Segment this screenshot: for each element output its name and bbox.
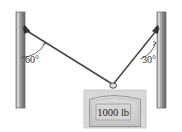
cable-junction-ring: [110, 83, 117, 88]
cable-assembly: [26, 30, 157, 85]
right-hook-bracket: [152, 25, 159, 33]
right-anchor-hook: [152, 25, 159, 33]
weight-label-text: 1000 lb: [97, 107, 129, 118]
left-support-pole: [16, 12, 25, 108]
left-angle-label: 60°: [25, 54, 39, 65]
suspended-weight: 1000 lb: [84, 90, 146, 128]
statics-diagram-figure: 60° 30° 1000 lb: [0, 0, 182, 132]
left-pole-body: [16, 12, 25, 108]
diagram-canvas: 60° 30° 1000 lb: [0, 0, 182, 132]
right-angle-label: 30°: [142, 54, 156, 65]
junction-ring: [110, 83, 117, 88]
